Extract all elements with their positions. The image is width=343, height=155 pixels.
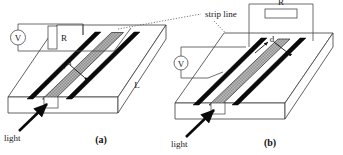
gap-label-a: d (67, 57, 72, 67)
gap-label-b: d (270, 34, 275, 44)
figure-root: d L V R light (0, 0, 343, 155)
substrate-slab-a (8, 25, 166, 113)
caption-b: (b) (264, 137, 276, 149)
length-label-a: L (134, 80, 140, 90)
light-label-b: light (171, 139, 188, 149)
strip-line-label: strip line (205, 9, 237, 19)
resistor-label-b: R (278, 0, 284, 7)
voltmeter-symbol-a: V (15, 33, 22, 43)
light-label-a: light (4, 133, 21, 143)
voltmeter-symbol-b: V (178, 59, 185, 69)
panel-a: d L V R light (4, 24, 166, 146)
resistor-b (265, 9, 297, 18)
resistor-label-a: R (61, 33, 67, 43)
resistor-a (48, 26, 57, 49)
caption-a: (a) (95, 134, 107, 146)
panel-b: d R V light (b) (171, 0, 333, 149)
